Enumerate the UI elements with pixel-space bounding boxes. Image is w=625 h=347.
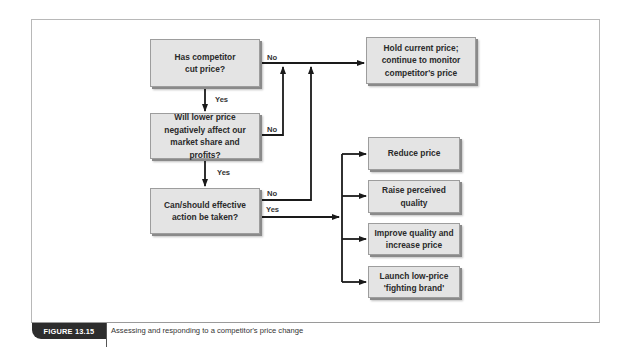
caption-divider	[106, 323, 107, 347]
node-text: Reduce price	[388, 147, 441, 160]
node-raise-quality: Raise perceived quality	[368, 180, 460, 213]
node-text: Will lower price negatively affect our m…	[155, 111, 255, 161]
node-text: Can/should effective action be taken?	[163, 199, 247, 224]
edge-label-q2-no: No	[267, 125, 277, 134]
node-competitor-cut-price: Has competitor cut price?	[150, 39, 260, 87]
edge-label-q3-yes: Yes	[266, 205, 279, 214]
node-text: Improve quality and increase price	[374, 227, 454, 252]
node-improve-quality: Improve quality and increase price	[368, 223, 460, 255]
node-reduce-price: Reduce price	[368, 137, 460, 170]
node-fighting-brand: Launch low-price 'fighting brand'	[368, 266, 460, 298]
node-text: Launch low-price 'fighting brand'	[378, 270, 450, 295]
node-text: Has competitor cut price?	[170, 51, 240, 76]
edge-label-q2-yes: Yes	[217, 168, 230, 177]
figure-caption: Assessing and responding to a competitor…	[111, 326, 303, 335]
edge-label-q1-yes: Yes	[215, 95, 228, 104]
connectors	[0, 0, 625, 347]
figure-number-tag: FIGURE 13.15	[32, 323, 106, 339]
edge-label-q3-no: No	[267, 189, 277, 198]
edge-label-q1-no: No	[267, 53, 277, 62]
node-text: Hold current price; continue to monitor …	[374, 42, 468, 80]
node-affect-market-share: Will lower price negatively affect our m…	[150, 113, 260, 159]
node-effective-action: Can/should effective action be taken?	[150, 188, 260, 234]
node-hold-price: Hold current price; continue to monitor …	[366, 37, 476, 84]
node-text: Raise perceived quality	[379, 184, 449, 209]
